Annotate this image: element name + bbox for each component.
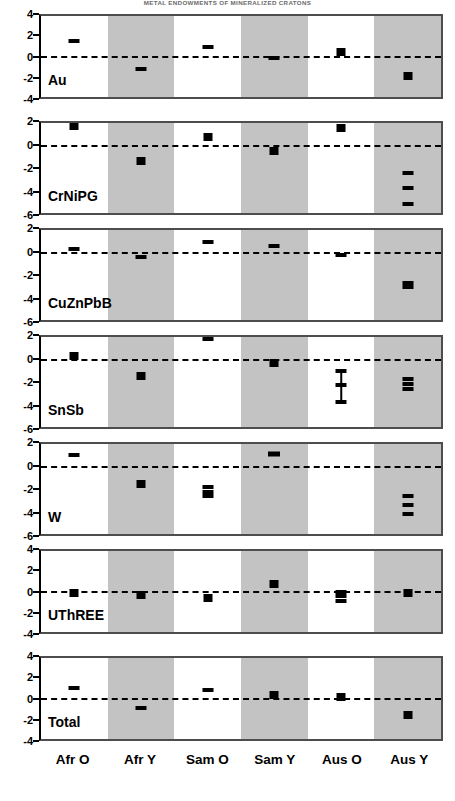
data-point [403, 72, 412, 80]
data-point [402, 186, 413, 190]
plot-area [39, 14, 443, 99]
data-point [137, 480, 146, 488]
data-point [136, 706, 147, 710]
data-point [69, 39, 80, 43]
data-point [402, 382, 413, 386]
zero-reference-line [41, 56, 441, 58]
data-point [403, 711, 412, 719]
band-afr-y [108, 337, 175, 427]
zero-reference-line [41, 252, 441, 254]
data-point [137, 591, 146, 599]
panel-label: Au [48, 73, 67, 87]
y-axis-cuznpbb: 20-2-4-6 [0, 228, 40, 322]
data-point [336, 383, 347, 387]
data-point [402, 202, 413, 206]
y-tick-label: -2 [23, 270, 33, 281]
data-point [402, 171, 413, 175]
data-point [203, 594, 212, 602]
y-tick-label: -4 [23, 94, 33, 105]
band-aus-o [308, 230, 375, 320]
figure-root: METAL ENDOWMENTS OF MINERALIZED CRATONS … [0, 0, 455, 801]
panel-label: W [48, 510, 61, 524]
data-point [136, 255, 147, 259]
data-point [202, 490, 213, 494]
x-tick-label-aus-o: Aus O [322, 753, 362, 767]
panel-cuznpbb: 20-2-4-6CuZnPbB [0, 228, 455, 322]
y-tick-label: -4 [23, 629, 33, 640]
y-tick-label: -2 [23, 377, 33, 388]
data-point [70, 122, 79, 130]
figure-title: METAL ENDOWMENTS OF MINERALIZED CRATONS [0, 0, 455, 7]
zero-reference-line [41, 591, 441, 593]
data-point [402, 387, 413, 391]
data-point [336, 590, 347, 594]
data-point [202, 494, 213, 498]
band-afr-y [108, 444, 175, 534]
data-point [269, 244, 280, 248]
data-point [336, 253, 347, 257]
data-point [70, 589, 79, 597]
y-tick-label: -6 [23, 424, 33, 435]
y-tick-label: -4 [23, 400, 33, 411]
y-axis-total: 420-2-4 [0, 656, 40, 741]
y-axis-uthree: 420-2-4 [0, 549, 40, 634]
y-tick-label: -4 [23, 293, 33, 304]
data-point [336, 594, 347, 598]
data-point [69, 247, 80, 251]
data-point [269, 56, 280, 60]
data-point [270, 691, 279, 699]
data-point [69, 453, 80, 457]
y-tick-label: -4 [23, 186, 33, 197]
data-point [337, 124, 346, 132]
band-aus-o [308, 123, 375, 213]
data-point [336, 369, 347, 373]
data-point [337, 693, 346, 701]
x-tick-label-afr-o: Afr O [56, 753, 90, 767]
y-tick-label: -2 [23, 72, 33, 83]
data-point [268, 452, 280, 457]
panel-label: SnSb [48, 403, 84, 417]
y-tick-label: -2 [23, 484, 33, 495]
y-axis-w: 20-2-4-6 [0, 442, 40, 536]
data-point [202, 45, 213, 49]
y-axis-snsb: 20-2-4-6 [0, 335, 40, 429]
data-point [337, 48, 346, 56]
data-point [202, 240, 213, 244]
zero-reference-line [41, 466, 441, 468]
y-tick-label: -6 [23, 210, 33, 221]
panel-crnipg: 20-2-4-6CrNiPG [0, 121, 455, 215]
x-tick-label-aus-y: Aus Y [390, 753, 428, 767]
y-tick-label: -6 [23, 531, 33, 542]
data-point [202, 337, 213, 341]
y-axis-crnipg: 20-2-4-6 [0, 121, 40, 215]
band-afr-y [108, 230, 175, 320]
y-tick-label: -4 [23, 736, 33, 747]
data-point [402, 285, 413, 289]
plot-area [39, 121, 443, 215]
data-point [137, 372, 146, 380]
y-tick-label: -4 [23, 507, 33, 518]
band-sam-o [174, 337, 241, 427]
data-point [402, 494, 413, 498]
band-aus-o [308, 444, 375, 534]
data-point [270, 359, 279, 367]
panel-label: CrNiPG [48, 189, 98, 203]
zero-reference-line [41, 359, 441, 361]
data-point [402, 503, 413, 507]
x-tick-label-afr-y: Afr Y [124, 753, 156, 767]
panel-w: 20-2-4-6W [0, 442, 455, 536]
y-tick-label: -2 [23, 163, 33, 174]
y-tick-label: -6 [23, 317, 33, 328]
data-point [403, 589, 412, 597]
x-tick-label-sam-o: Sam O [186, 753, 229, 767]
data-point [136, 67, 147, 71]
data-point [270, 580, 279, 588]
band-aus-y [374, 230, 441, 320]
band-sam-y [241, 444, 308, 534]
plot-area [39, 656, 443, 741]
data-point [202, 688, 213, 692]
plot-area [39, 442, 443, 536]
data-point [336, 400, 347, 404]
y-tick-label: -2 [23, 607, 33, 618]
panel-au: 420-2-4Au [0, 14, 455, 99]
